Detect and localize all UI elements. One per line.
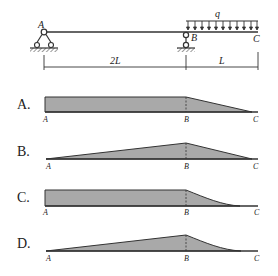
option-c-diagram[interactable]: C. A B C [17, 190, 260, 217]
option-d-point-b: B [184, 254, 189, 263]
option-c-label[interactable]: C. [17, 190, 30, 205]
option-c-point-a: A [42, 208, 48, 217]
load-label-q: q [215, 8, 220, 19]
option-a-point-b: B [184, 115, 189, 124]
beam-schematic: A B C [30, 8, 260, 70]
option-d-diagram[interactable]: D. A B C [17, 235, 260, 263]
dimension-label-2l: 2L [110, 55, 121, 66]
option-d-point-a: A [45, 254, 51, 263]
option-a-label[interactable]: A. [17, 97, 31, 112]
option-a-diagram[interactable]: A. A B C [17, 97, 259, 124]
option-a-point-a: A [42, 115, 48, 124]
option-c-point-c: C [254, 208, 260, 217]
point-label-a: A [37, 19, 45, 30]
distributed-load-q-icon [186, 21, 259, 30]
option-d-point-c: C [254, 254, 260, 263]
option-a-point-c: C [253, 115, 259, 124]
option-b-diagram[interactable]: B. A B C [17, 143, 259, 171]
option-b-label[interactable]: B. [17, 144, 30, 159]
point-label-c: C [253, 33, 260, 44]
option-b-point-b: B [184, 162, 189, 171]
point-label-b: B [191, 32, 197, 43]
dimension-line [44, 52, 258, 70]
beam-problem-figure: A B C [0, 0, 278, 276]
option-d-label[interactable]: D. [17, 236, 31, 251]
option-b-point-a: A [45, 162, 51, 171]
option-b-point-c: C [253, 162, 259, 171]
dimension-label-l: L [218, 55, 225, 66]
option-c-point-b: B [184, 208, 189, 217]
